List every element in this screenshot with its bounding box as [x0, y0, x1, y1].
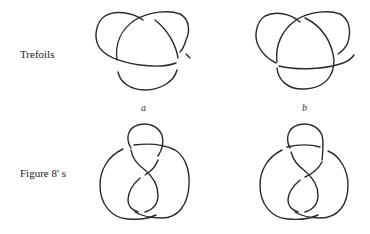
figure-eight-b — [260, 124, 348, 219]
trefoil-a — [96, 12, 190, 90]
knot-diagrams — [0, 0, 370, 234]
figure-eight-a — [100, 124, 189, 219]
trefoil-b — [256, 12, 354, 89]
